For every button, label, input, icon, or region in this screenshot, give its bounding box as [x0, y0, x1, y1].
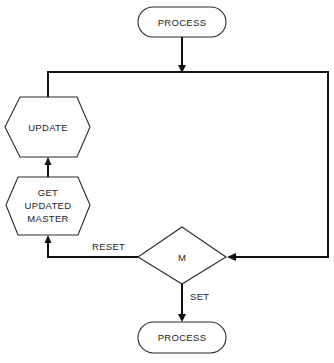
process-end-label: PROCESS	[158, 332, 207, 343]
set-label: SET	[190, 291, 209, 302]
reset-label: RESET	[92, 241, 125, 252]
master-to-update-connector	[45, 157, 52, 177]
set-connector: SET	[178, 284, 209, 322]
get-updated-master-node[interactable]: GET UPDATED MASTER	[6, 177, 90, 235]
get-updated-master-label-line-2: UPDATED	[25, 200, 72, 211]
arrow-left-icon	[227, 253, 236, 261]
update-label: UPDATE	[28, 122, 68, 133]
arrow-up-icon	[45, 235, 52, 243]
arrow-up-icon	[45, 157, 52, 165]
process-start-label: PROCESS	[158, 17, 207, 28]
arrow-down-icon	[178, 314, 186, 322]
process-start-node[interactable]: PROCESS	[138, 7, 226, 37]
update-node[interactable]: UPDATE	[5, 97, 90, 157]
process-end-node[interactable]: PROCESS	[138, 322, 226, 353]
decision-m-node[interactable]: M	[138, 227, 226, 284]
entry-connector	[178, 37, 186, 73]
flowchart-canvas: PROCESS UPDATE GET UPDATED MASTER RESET …	[0, 0, 334, 363]
reset-connector: RESET	[45, 235, 139, 257]
get-updated-master-label-line-3: MASTER	[27, 213, 68, 224]
get-updated-master-label-line-1: GET	[38, 187, 58, 198]
decision-m-label: M	[178, 252, 186, 263]
